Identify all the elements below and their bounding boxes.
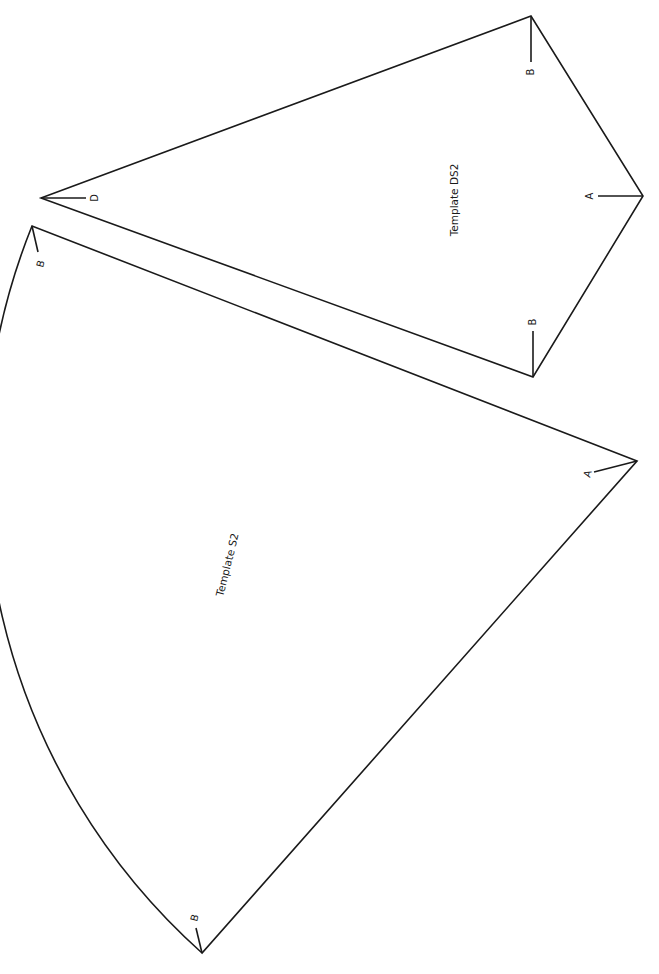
s2-apex-tick: [594, 461, 637, 472]
s2-top-label: B: [34, 259, 46, 269]
s2-top-tick: [32, 226, 38, 252]
diagram-canvas: A B B Template S2 D B A B Template DS2: [0, 0, 659, 974]
s2-outline: [0, 226, 637, 953]
ds2-outline: [41, 16, 643, 377]
ds2-right-label: A: [584, 192, 595, 199]
ds2-apex-label: D: [89, 194, 100, 202]
s2-title: Template S2: [213, 532, 241, 599]
template-s2: A B B Template S2: [0, 226, 637, 953]
template-ds2: D B A B Template DS2: [41, 16, 643, 377]
ds2-bottom-label: B: [527, 318, 538, 325]
s2-apex-label: A: [581, 469, 593, 479]
ds2-top-label: B: [525, 68, 536, 75]
s2-bottom-label: B: [188, 913, 200, 923]
ds2-title: Template DS2: [448, 164, 460, 238]
